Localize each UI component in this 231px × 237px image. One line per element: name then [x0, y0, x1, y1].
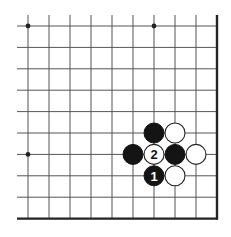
go-board: 21: [0, 0, 231, 237]
black-stone: [144, 123, 164, 143]
black-stone-icon: [123, 144, 143, 164]
white-stone: 2: [144, 144, 164, 164]
white-stone-icon: [186, 144, 206, 164]
black-stone: [165, 144, 185, 164]
grid-lines: [17, 15, 217, 219]
white-stone-icon: [165, 123, 185, 143]
star-point-icon: [26, 24, 31, 29]
star-point-icon: [152, 24, 157, 29]
white-stone: [165, 166, 185, 186]
move-number-label: 1: [150, 169, 157, 184]
black-stone: [123, 144, 143, 164]
move-number-label: 2: [150, 147, 157, 162]
black-stone-icon: [165, 144, 185, 164]
star-point-icon: [26, 152, 31, 157]
white-stone-icon: [165, 166, 185, 186]
board-edges: [17, 15, 218, 220]
stones: 21: [123, 123, 206, 186]
black-stone-icon: [144, 123, 164, 143]
white-stone: [186, 144, 206, 164]
black-stone: 1: [144, 166, 164, 186]
white-stone: [165, 123, 185, 143]
